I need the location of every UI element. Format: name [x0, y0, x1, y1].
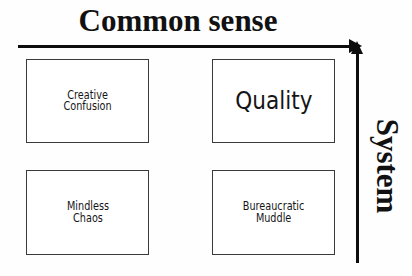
vertical-axis-arrowhead-icon [351, 41, 363, 54]
horizontal-axis-line [18, 45, 356, 48]
vertical-axis-line [356, 52, 359, 263]
quadrant-label: Bureaucratic Muddle [243, 201, 304, 224]
quadrant-top-left: Creative Confusion [26, 59, 149, 143]
horizontal-axis-title: Common sense [0, 4, 356, 38]
quadrant-bottom-left: Mindless Chaos [26, 170, 149, 255]
quadrant-top-right: Quality [212, 59, 335, 143]
quadrant-label: Mindless Chaos [67, 201, 109, 224]
quadrant-bottom-right: Bureaucratic Muddle [212, 170, 335, 255]
vertical-axis-title: System [370, 96, 404, 236]
quadrant-label: Quality [235, 88, 312, 114]
quadrant-label: Creative Confusion [63, 90, 111, 113]
matrix-diagram: Common sense System Creative Confusion Q… [0, 0, 412, 276]
